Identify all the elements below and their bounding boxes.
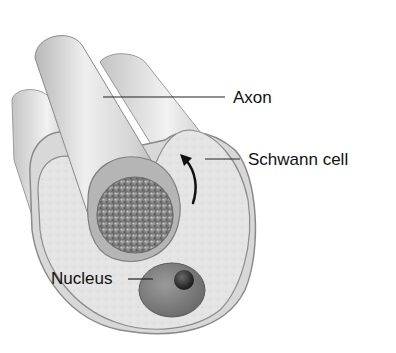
nucleolus bbox=[174, 270, 194, 290]
nucleus-label: Nucleus bbox=[51, 270, 112, 287]
schwann-cell-label: Schwann cell bbox=[248, 151, 348, 168]
nucleus bbox=[139, 263, 205, 317]
axon-core bbox=[97, 177, 173, 253]
schwann-cell-diagram bbox=[0, 0, 396, 353]
axon-label: Axon bbox=[233, 89, 272, 106]
